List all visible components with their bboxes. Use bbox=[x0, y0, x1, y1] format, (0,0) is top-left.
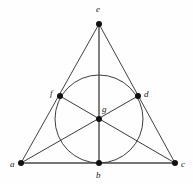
point-label-f: f bbox=[50, 89, 53, 98]
point-label-g: g bbox=[102, 105, 107, 114]
point-label-d: d bbox=[144, 90, 149, 99]
point-dot-d bbox=[135, 93, 141, 99]
point-dot-c bbox=[172, 160, 178, 166]
point-label-e: e bbox=[96, 5, 100, 14]
geometry-figure: a b c d e f g bbox=[0, 0, 194, 185]
geometry-canvas bbox=[0, 0, 194, 185]
segment-median-ad bbox=[21, 96, 138, 163]
point-label-b: b bbox=[96, 171, 101, 180]
point-label-a: a bbox=[10, 160, 15, 169]
point-dot-g bbox=[96, 116, 102, 122]
point-dot-a bbox=[18, 160, 24, 166]
segment-median-cf bbox=[60, 96, 175, 163]
point-dot-f bbox=[57, 93, 63, 99]
point-dot-e bbox=[96, 21, 102, 27]
point-label-c: c bbox=[181, 160, 185, 169]
point-dot-b bbox=[96, 160, 102, 166]
